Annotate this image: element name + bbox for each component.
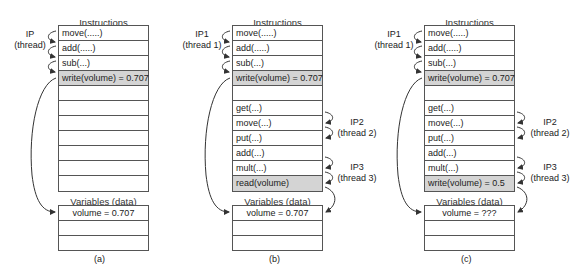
write-arrow-c-long bbox=[397, 78, 422, 212]
arrows-overlay bbox=[0, 0, 579, 280]
write-arrow-a-long bbox=[31, 78, 56, 212]
step-arrows-b bbox=[222, 31, 335, 212]
write-arrow-b-long bbox=[205, 78, 230, 212]
step-arrows-c bbox=[414, 31, 527, 212]
step-arrows-a bbox=[48, 31, 56, 72]
